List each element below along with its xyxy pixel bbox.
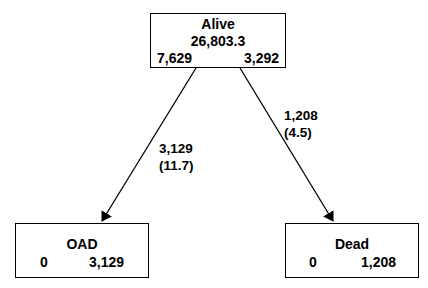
node-dead: Dead 0 1,208: [285, 223, 419, 278]
edge-dead-rate: (4.5): [284, 124, 318, 141]
edge-oad-label: 3,129 (11.7): [159, 140, 194, 174]
edge-dead-label: 1,208 (4.5): [284, 107, 318, 141]
node-oad-right-value: 3,129: [89, 254, 124, 270]
node-oad-left-value: 0: [40, 254, 48, 270]
node-alive-right-value: 3,292: [244, 50, 279, 66]
node-alive-title: Alive: [151, 16, 285, 32]
node-alive-total: 26,803.3: [151, 33, 285, 49]
edge-oad-rate: (11.7): [159, 157, 194, 174]
arrow-alive-to-dead: [240, 68, 333, 221]
edge-oad-count: 3,129: [159, 140, 194, 157]
node-alive: Alive 26,803.3 7,629 3,292: [150, 13, 286, 68]
node-alive-left-value: 7,629: [157, 50, 192, 66]
node-oad-title: OAD: [16, 236, 148, 252]
node-dead-title: Dead: [286, 236, 418, 252]
edge-dead-count: 1,208: [284, 107, 318, 124]
node-dead-right-value: 1,208: [361, 254, 396, 270]
node-oad: OAD 0 3,129: [15, 223, 149, 278]
node-dead-left-value: 0: [309, 254, 317, 270]
